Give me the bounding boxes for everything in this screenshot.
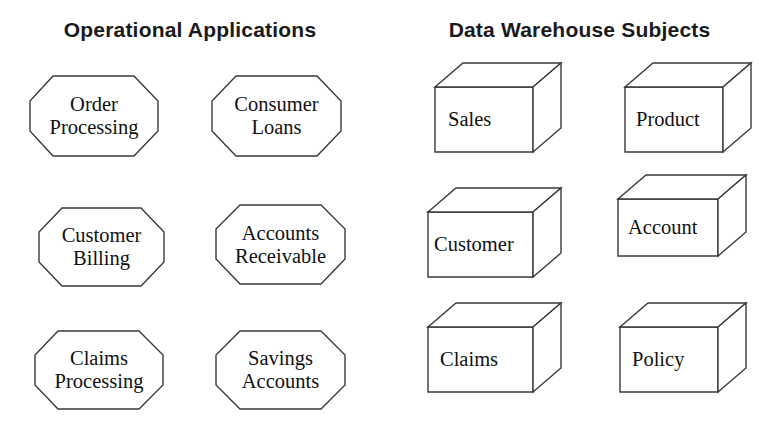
label-line-1: Order bbox=[70, 93, 118, 116]
octagon-label-order-processing: Order Processing bbox=[30, 76, 158, 156]
label-line-1: Consumer bbox=[234, 93, 318, 116]
cube-label-claims: Claims bbox=[440, 327, 535, 392]
octagon-label-claims-processing: Claims Processing bbox=[35, 331, 163, 409]
cube-label-customer: Customer bbox=[434, 212, 538, 277]
cube-label-policy: Policy bbox=[632, 327, 722, 392]
label-line-1: Accounts bbox=[242, 222, 319, 245]
cube-label-account: Account bbox=[628, 199, 724, 256]
octagon-label-consumer-loans: Consumer Loans bbox=[212, 76, 341, 156]
octagon-label-customer-billing: Customer Billing bbox=[39, 208, 164, 286]
label-line-2: Loans bbox=[251, 116, 301, 139]
octagon-label-accounts-receivable: Accounts Receivable bbox=[216, 205, 345, 284]
cube-label-sales: Sales bbox=[448, 87, 538, 152]
label-line-2: Processing bbox=[50, 116, 139, 139]
label-line-2: Processing bbox=[55, 370, 144, 393]
label-line-1: Customer bbox=[62, 224, 142, 247]
label-line-2: Receivable bbox=[235, 245, 326, 268]
heading-operational-applications: Operational Applications bbox=[0, 18, 380, 42]
label-line-2: Accounts bbox=[242, 370, 319, 393]
label-line-1: Savings bbox=[248, 347, 313, 370]
cube-label-product: Product bbox=[636, 87, 726, 152]
diagram-canvas: Operational Applications Data Warehouse … bbox=[0, 0, 759, 423]
label-line-2: Billing bbox=[73, 247, 130, 270]
label-line-1: Claims bbox=[70, 347, 128, 370]
octagon-label-savings-accounts: Savings Accounts bbox=[216, 331, 345, 409]
heading-data-warehouse-subjects: Data Warehouse Subjects bbox=[400, 18, 759, 42]
